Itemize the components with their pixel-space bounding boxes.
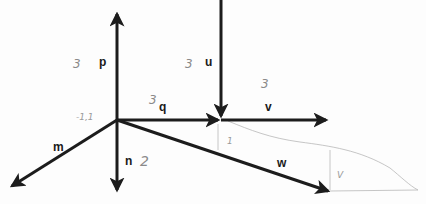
annotation-q: 3 — [149, 93, 157, 107]
label-q: q — [159, 100, 166, 114]
label-m: m — [53, 140, 64, 154]
label-w: w — [276, 156, 287, 170]
diagram-svg: 1 V p n m q u v w 3 2 3 3 3 -1,1 — [0, 0, 426, 204]
vector-m-arrow — [12, 120, 117, 186]
annotation-p: 3 — [73, 57, 81, 71]
label-p: p — [99, 55, 106, 69]
annotation-n: 2 — [140, 153, 149, 169]
annotation-v: 3 — [261, 77, 269, 91]
origin-annotation: -1,1 — [76, 112, 94, 122]
pencil-mark-2: V — [337, 170, 344, 180]
pencil-sketch — [218, 121, 418, 191]
vector-diagram: 1 V p n m q u v w 3 2 3 3 3 -1,1 — [0, 0, 426, 204]
label-n: n — [125, 154, 132, 168]
label-v: v — [265, 100, 272, 114]
pencil-mark-1: 1 — [227, 136, 233, 146]
label-u: u — [205, 55, 212, 69]
annotation-u: 3 — [185, 57, 193, 71]
pencil-base — [330, 190, 418, 191]
pencil-curve — [228, 121, 418, 190]
